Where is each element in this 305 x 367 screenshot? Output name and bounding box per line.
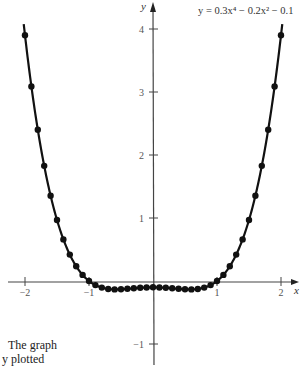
data-point <box>201 284 207 290</box>
data-point <box>195 286 201 292</box>
data-point <box>86 278 92 284</box>
data-point <box>163 285 169 291</box>
y-tick-label: −1 <box>133 339 144 350</box>
data-point <box>41 163 47 169</box>
y-tick-label: 3 <box>139 87 144 98</box>
data-point <box>239 236 245 242</box>
x-axis-label: x <box>293 284 299 296</box>
data-point <box>118 286 124 292</box>
data-point <box>246 217 252 223</box>
y-tick-label: 2 <box>139 150 144 161</box>
data-point <box>73 263 79 269</box>
data-point <box>124 286 130 292</box>
data-point <box>227 263 233 269</box>
y-tick-label: 1 <box>139 213 144 224</box>
data-point <box>99 284 105 290</box>
data-point <box>175 286 181 292</box>
data-point <box>252 192 258 198</box>
data-point <box>169 285 175 291</box>
data-point <box>150 284 156 290</box>
x-tick-label: 2 <box>279 287 284 298</box>
data-point <box>233 251 239 257</box>
y-tick-label: 4 <box>139 24 144 35</box>
data-point <box>22 32 28 38</box>
data-point <box>214 278 220 284</box>
data-point <box>54 217 60 223</box>
data-point <box>67 251 73 257</box>
data-point <box>92 282 98 288</box>
caption-line-1: The graph <box>8 338 57 353</box>
data-point <box>207 282 213 288</box>
data-point <box>278 32 284 38</box>
data-point <box>35 127 41 133</box>
caption-line-2: y plotted <box>2 352 44 367</box>
data-point <box>137 285 143 291</box>
equation-label: y = 0.3x⁴ − 0.2x² − 0.1 <box>198 5 293 16</box>
data-point <box>156 284 162 290</box>
x-tick-label: −2 <box>20 287 31 298</box>
data-point <box>143 284 149 290</box>
y-axis-label: y <box>140 0 146 12</box>
data-point <box>188 286 194 292</box>
x-tick-label: 1 <box>215 287 220 298</box>
data-point <box>111 286 117 292</box>
y-axis-arrow-icon <box>150 2 156 12</box>
data-point <box>182 286 188 292</box>
data-point <box>79 272 85 278</box>
data-point <box>105 286 111 292</box>
y-axis <box>153 6 154 365</box>
data-point <box>220 272 226 278</box>
data-point <box>47 192 53 198</box>
x-tick-label: −1 <box>84 287 95 298</box>
data-point <box>265 127 271 133</box>
data-point <box>28 83 34 89</box>
data-point <box>271 83 277 89</box>
data-point <box>60 236 66 242</box>
data-point <box>259 163 265 169</box>
data-point <box>131 285 137 291</box>
